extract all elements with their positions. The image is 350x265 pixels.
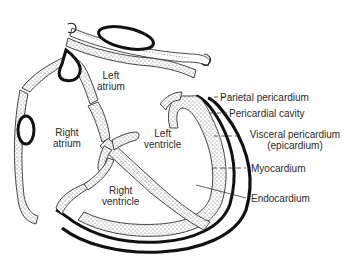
label-right-ventricle-line2: ventricle (102, 196, 139, 207)
heart-diagram: Left atrium Right atrium Left ventricle … (0, 0, 350, 265)
label-right-atrium: Right atrium (53, 127, 81, 149)
label-visceral-pericardium-line2: (epicardium) (240, 140, 350, 151)
label-parietal-pericardium: Parietal pericardium (220, 92, 309, 103)
label-left-ventricle-line2: ventricle (144, 139, 181, 150)
label-visceral-pericardium-line1: Visceral pericardium (240, 129, 350, 140)
label-right-ventricle-line1: Right (102, 185, 139, 196)
label-visceral-pericardium: Visceral pericardium (epicardium) (240, 129, 350, 151)
label-right-atrium-line2: atrium (53, 138, 81, 149)
label-left-atrium-line2: atrium (97, 81, 125, 92)
label-left-ventricle-line1: Left (144, 128, 181, 139)
label-right-atrium-line1: Right (53, 127, 81, 138)
label-right-ventricle: Right ventricle (102, 185, 139, 207)
label-left-atrium-line1: Left (97, 70, 125, 81)
label-left-ventricle: Left ventricle (144, 128, 181, 150)
label-pericardial-cavity: Pericardial cavity (229, 108, 305, 119)
label-left-atrium: Left atrium (97, 70, 125, 92)
label-myocardium: Myocardium (251, 163, 305, 174)
label-endocardium: Endocardium (251, 193, 310, 204)
